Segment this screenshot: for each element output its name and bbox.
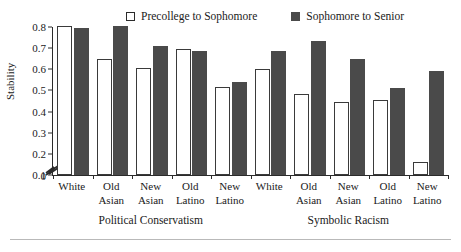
bar — [232, 82, 247, 175]
x-tick-mark — [330, 175, 331, 179]
x-tick-mark — [251, 175, 252, 179]
bottom-divider — [10, 239, 451, 240]
bar — [74, 28, 89, 175]
legend-entry-sophomore-to-senior: Sophomore to Senior — [291, 11, 404, 23]
y-axis-title: Stability — [4, 63, 16, 100]
x-tick-mark — [409, 175, 410, 179]
x-tick-label: OldLatino — [368, 180, 408, 207]
y-tick-mark — [48, 48, 52, 49]
legend-label-sophomore-to-senior: Sophomore to Senior — [306, 11, 404, 23]
bar — [271, 51, 286, 175]
bar-group — [373, 27, 405, 175]
y-tick-mark — [48, 153, 52, 154]
group-label: Political Conservatism — [52, 214, 250, 226]
bar-group — [215, 27, 247, 175]
group-labels: Political ConservatismSymbolic Racism — [52, 214, 448, 230]
bar-chart-figure: Precollege to Sophomore Sophomore to Sen… — [0, 0, 461, 252]
plot-area: 0.10.20.30.40.50.60.70.80 — [52, 27, 447, 176]
bar — [429, 71, 444, 175]
bar — [215, 87, 230, 175]
x-tick-label: OldAsian — [289, 180, 329, 207]
y-tick-mark — [48, 27, 52, 28]
bar-group — [334, 27, 366, 175]
bar — [334, 102, 349, 175]
bar-group — [97, 27, 129, 175]
x-tick-label: White — [52, 180, 92, 194]
bar-group — [294, 27, 326, 175]
bar — [311, 41, 326, 175]
x-tick-label: NewAsian — [329, 180, 369, 207]
x-axis-labels: WhiteOldAsianNewAsianOldLatinoNewLatinoW… — [52, 180, 448, 214]
bar-group — [255, 27, 287, 175]
x-tick-mark — [211, 175, 212, 179]
bars-container — [53, 27, 448, 175]
bar — [373, 100, 388, 175]
x-tick-label: OldLatino — [171, 180, 211, 207]
bar — [136, 68, 151, 175]
x-tick-mark — [448, 175, 449, 179]
bar-group — [136, 27, 168, 175]
bar — [113, 26, 128, 175]
bar-group — [57, 27, 89, 175]
x-tick-marks — [52, 175, 448, 179]
bar — [192, 51, 207, 175]
bar — [294, 94, 309, 175]
bar — [413, 162, 428, 175]
x-tick-mark — [132, 175, 133, 179]
bar — [350, 59, 365, 175]
legend-entry-precollege-to-sophomore: Precollege to Sophomore — [126, 11, 257, 23]
x-tick-label: White — [250, 180, 290, 194]
bar — [57, 26, 72, 175]
bar-group — [176, 27, 208, 175]
x-tick-mark — [53, 175, 54, 179]
x-tick-label: NewLatino — [210, 180, 250, 207]
bar — [153, 46, 168, 175]
bar — [176, 49, 191, 175]
x-tick-label: OldAsian — [92, 180, 132, 207]
open-square-icon — [126, 12, 135, 21]
bar — [97, 59, 112, 175]
y-tick-mark — [48, 69, 52, 70]
x-tick-label: NewLatino — [408, 180, 448, 207]
x-tick-mark — [290, 175, 291, 179]
y-tick-mark — [48, 90, 52, 91]
bar — [390, 88, 405, 175]
bar — [255, 69, 270, 175]
x-tick-label: NewAsian — [131, 180, 171, 207]
legend-label-precollege-to-sophomore: Precollege to Sophomore — [141, 11, 257, 23]
y-tick-mark — [48, 132, 52, 133]
bar-group — [413, 27, 445, 175]
chart-legend: Precollege to Sophomore Sophomore to Sen… — [126, 11, 404, 23]
filled-square-icon — [291, 12, 300, 21]
x-tick-mark — [369, 175, 370, 179]
x-tick-mark — [172, 175, 173, 179]
x-tick-mark — [93, 175, 94, 179]
group-label: Symbolic Racism — [250, 214, 448, 226]
y-tick-mark — [48, 111, 52, 112]
